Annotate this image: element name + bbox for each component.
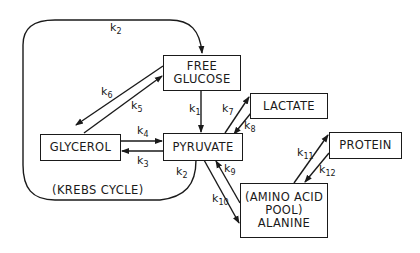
node-pyruvate: PYRUVATE (163, 133, 243, 161)
node-label: ALANINE (258, 217, 310, 230)
node-label: LACTATE (263, 100, 315, 113)
arrow-k5 (84, 76, 162, 133)
node-lactate: LACTATE (250, 93, 328, 119)
node-glycerol: GLYCEROL (40, 134, 121, 161)
rate-k5: k5 (131, 99, 142, 114)
node-free-glucose: FREE GLUCOSE (163, 55, 241, 91)
node-protein: PROTEIN (329, 132, 402, 159)
rate-k10: k10 (212, 192, 229, 207)
rate-k11: k11 (297, 146, 314, 161)
connectors (0, 0, 420, 253)
node-label: GLYCEROL (50, 141, 111, 154)
rate-k2-bottom: k2 (176, 165, 187, 180)
rate-k1: k1 (189, 102, 200, 117)
rate-k3: k3 (137, 154, 148, 169)
rate-k4: k4 (137, 124, 148, 139)
rate-k12: k12 (319, 163, 336, 178)
node-label: PROTEIN (339, 139, 391, 152)
rate-k8: k8 (244, 119, 255, 134)
rate-k9: k9 (224, 162, 235, 177)
rate-k7: k7 (222, 102, 233, 117)
rate-k6: k6 (101, 85, 112, 100)
rate-k2-top: k2 (110, 21, 121, 36)
node-label: GLUCOSE (174, 73, 231, 86)
metabolic-pathway-diagram: FREE GLUCOSE LACTATE GLYCEROL PYRUVATE P… (0, 0, 420, 253)
arrow-k6 (76, 66, 163, 125)
node-label: PYRUVATE (173, 141, 234, 154)
krebs-cycle-label: (KREBS CYCLE) (52, 183, 144, 197)
node-alanine: (AMINO ACID POOL) ALANINE (240, 183, 328, 238)
